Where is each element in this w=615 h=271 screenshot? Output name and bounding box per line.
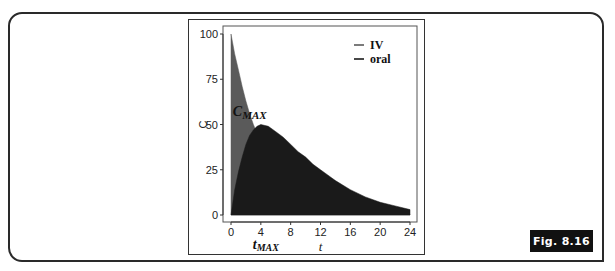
- x-tick-label: 8: [288, 226, 294, 238]
- figure-label: Fig. 8.16: [530, 230, 593, 252]
- concentration-time-chart: 025507510004812162024CtCMAXtMAXIVoral: [189, 20, 426, 256]
- y-tick-label: 0: [212, 209, 218, 221]
- y-tick-label: 75: [206, 73, 218, 85]
- x-tick-label: 20: [374, 226, 386, 238]
- x-tick-label: 24: [404, 226, 416, 238]
- y-tick-label: 25: [206, 164, 218, 176]
- x-tick-label: 16: [344, 226, 356, 238]
- legend-label-iv: IV: [370, 38, 384, 52]
- tmax-annotation: tMAX: [253, 237, 279, 253]
- legend-label-oral: oral: [370, 52, 391, 66]
- chart-frame: 025507510004812162024CtCMAXtMAXIVoral: [188, 19, 425, 255]
- y-tick-label: 100: [200, 28, 218, 40]
- y-axis-title: C: [197, 120, 209, 128]
- x-tick-label: 0: [228, 226, 234, 238]
- x-tick-label: 4: [258, 226, 264, 238]
- x-axis-title: t: [319, 239, 323, 254]
- x-tick-label: 12: [314, 226, 326, 238]
